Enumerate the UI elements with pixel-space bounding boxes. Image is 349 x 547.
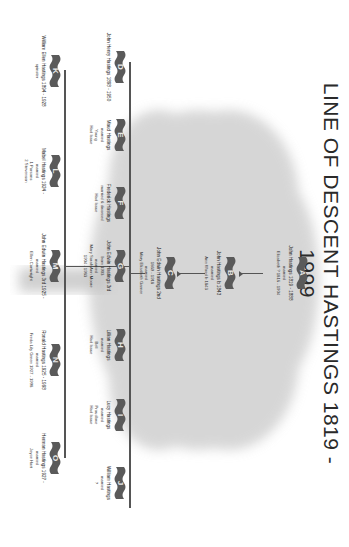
relation-label: married <box>144 236 150 310</box>
spouse-name-2: 2 Stevenson <box>23 134 29 208</box>
scroll-banner-icon: A <box>295 256 309 290</box>
scroll-banner-icon: O <box>48 441 62 475</box>
scroll-banner-icon: G <box>113 249 127 283</box>
person-node-h[interactable]: H Lillian Hastings married Bell Had Issu… <box>88 308 127 382</box>
person-node-o[interactable]: O Herman Hastings 1927 - married Joyce H… <box>29 421 62 495</box>
person-node-c[interactable]: C John Edwin Hastings 2nd 1869 - 1918 ma… <box>138 236 177 310</box>
arrow-icon <box>177 271 181 277</box>
spouse-name: Young <box>94 98 100 172</box>
scroll-banner-icon: B <box>223 256 237 290</box>
issue-note: Had Issue <box>88 308 94 382</box>
scroll-banner-icon: H <box>113 328 127 362</box>
person-name: Herman Hastings 1927 - <box>40 421 46 495</box>
relation-label: married <box>99 308 105 382</box>
relation-label: married <box>99 378 105 452</box>
spouse-name: 1 Parsons <box>29 134 35 208</box>
scroll-banner-icon: M <box>48 249 62 283</box>
family-tree-canvas: LINE OF DESCENT HASTINGS 1819 - 1999 A J… <box>0 0 349 547</box>
spouse-name: Elizabeth ? 1816 - 1904 <box>276 236 282 310</box>
spouse-name: Joyce Hart <box>29 421 35 495</box>
scroll-banner-icon: I <box>113 398 127 432</box>
person-name: William Ellen Hastings 1894 - 1928 <box>40 34 46 108</box>
person-name: Lillian Hastings <box>105 308 111 382</box>
issue-note: Had Issue <box>88 378 94 452</box>
spouse-dates: 1904 - 1983 <box>83 229 89 303</box>
person-node-e[interactable]: E Maud Hastings married Young Had Issue <box>88 98 127 172</box>
person-name: John Edwin Hastings 3rd <box>105 229 111 303</box>
person-name: John Edwin Hastings 2nd <box>155 236 161 310</box>
relation-label: married <box>94 229 100 303</box>
spouse-name: Proudlove <box>94 378 100 452</box>
scroll-banner-icon: J <box>113 466 127 500</box>
tier4-bus-line <box>130 62 132 508</box>
scroll-banner-icon: C <box>163 256 177 290</box>
person-name: John Hastings b 1843 <box>215 236 221 310</box>
person-node-a[interactable]: A John Hastings 1819 - 1888 married Eliz… <box>276 236 309 310</box>
tier5-bus-line <box>65 70 67 458</box>
person-node-b[interactable]: B John Hastings b 1843 married Ann Wood … <box>204 236 237 310</box>
spouse-name: Freda Lily Green 1927 - 1998 <box>29 323 35 397</box>
scroll-banner-icon: N <box>48 343 62 377</box>
person-node-d[interactable]: D John Henry Hastings 1898 - 1950 <box>105 30 127 104</box>
person-node-i[interactable]: I Lucy Hastings married Proudlove Had Is… <box>88 378 127 452</box>
relation-label: married <box>209 236 215 310</box>
spouse-name: Ellen Cartwright <box>29 229 35 303</box>
scroll-banner-icon: F <box>113 186 127 220</box>
person-name: John Hastings 1819 - 1888 <box>287 236 293 310</box>
person-node-k[interactable]: K William Ellen Hastings 1894 - 1928 spi… <box>34 34 62 108</box>
person-node-g[interactable]: G John Edwin Hastings 3rd born 1903 marr… <box>83 229 127 303</box>
scroll-banner-icon: E <box>113 118 127 152</box>
person-name: Maud Hastings <box>105 98 111 172</box>
spouse-name: ? <box>94 446 100 520</box>
person-name: Ronald Hastings 1925 - 1998 <box>40 323 46 397</box>
person-node-l[interactable]: L Mabel Hastings 1924 - married 1 Parson… <box>23 134 62 208</box>
scroll-banner-icon: K <box>48 54 62 88</box>
person-name: Mabel Hastings 1924 - <box>40 134 46 208</box>
person-name: John Henry Hastings 1898 - 1950 <box>105 30 111 104</box>
relation-label: married <box>34 134 40 208</box>
person-node-n[interactable]: N Ronald Hastings 1925 - 1998 married Fr… <box>29 323 62 397</box>
person-node-m[interactable]: M John Edwin Hastings 3rd 1925 - married… <box>29 229 62 303</box>
issue-note: Had Issue <box>88 98 94 172</box>
spouse-name: Mary Elizabeth Garner <box>138 236 144 310</box>
spouse-name: Ann Wood b 1843 <box>204 236 210 310</box>
spouse-name: Mary Sarah Ann Moore <box>88 229 94 303</box>
person-name: John Edwin Hastings 3rd 1925 - <box>40 229 46 303</box>
person-name: Lucy Hastings <box>105 378 111 452</box>
person-node-j[interactable]: J William Hastings married ? <box>94 446 127 520</box>
person-name: William Hastings <box>105 446 111 520</box>
scroll-banner-icon: L <box>48 154 62 188</box>
relation-label: married <box>99 446 105 520</box>
spouse-name: Bell <box>94 308 100 382</box>
connector-b-c <box>177 273 205 274</box>
relation-label: married <box>34 421 40 495</box>
relation-label: married <box>99 98 105 172</box>
scroll-banner-icon: D <box>113 50 127 84</box>
arrow-icon <box>239 271 243 277</box>
